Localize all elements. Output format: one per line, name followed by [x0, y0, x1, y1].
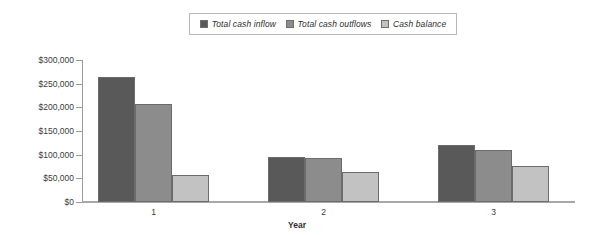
plot-area [82, 60, 575, 202]
y-axis-tick-mark [76, 131, 82, 132]
y-axis-tick-label: $200,000 [39, 102, 74, 112]
x-axis-title: Year [0, 220, 594, 230]
bar [438, 145, 475, 202]
legend-label-total-cash-inflow: Total cash inflow [212, 19, 276, 29]
y-axis-tick-mark [76, 60, 82, 61]
chart-legend: Total cash inflow Total cash outflows Ca… [189, 13, 457, 35]
bar [305, 158, 342, 202]
bar [475, 150, 512, 202]
bar [268, 157, 305, 202]
legend-swatch-total-cash-outflows [286, 20, 294, 28]
y-axis-tick-mark [76, 202, 82, 203]
x-axis-tick-label: 1 [151, 207, 156, 217]
legend-label-total-cash-outflows: Total cash outflows [298, 19, 372, 29]
y-axis-tick-mark [76, 107, 82, 108]
bar [512, 166, 549, 202]
y-axis-tick-mark [76, 84, 82, 85]
bar-chart: Total cash inflow Total cash outflows Ca… [0, 0, 594, 235]
legend-label-cash-balance: Cash balance [393, 19, 446, 29]
y-axis-tick-label: $0 [65, 197, 74, 207]
y-axis-tick-labels: $300,000$250,000$200,000$150,000$100,000… [0, 60, 74, 202]
y-axis-tick-label: $100,000 [39, 150, 74, 160]
y-axis-tick-label: $300,000 [39, 55, 74, 65]
bar [342, 172, 379, 202]
y-axis-tick-mark [76, 178, 82, 179]
bar [135, 104, 172, 202]
y-axis-tick-label: $250,000 [39, 79, 74, 89]
legend-item-total-cash-outflows: Total cash outflows [286, 19, 372, 29]
bar [172, 175, 209, 202]
y-axis-tick-label: $50,000 [43, 173, 74, 183]
x-axis-tick-label: 2 [321, 207, 326, 217]
bar [98, 77, 135, 202]
y-axis-tick-mark [76, 155, 82, 156]
legend-item-total-cash-inflow: Total cash inflow [200, 19, 276, 29]
legend-swatch-cash-balance [381, 20, 389, 28]
legend-item-cash-balance: Cash balance [381, 19, 446, 29]
x-axis-tick-label: 3 [491, 207, 496, 217]
legend-swatch-total-cash-inflow [200, 20, 208, 28]
y-axis-tick-label: $150,000 [39, 126, 74, 136]
